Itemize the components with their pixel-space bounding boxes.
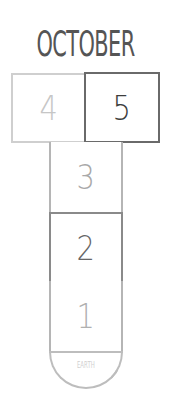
earth-base[interactable]: EARTH [49, 351, 123, 389]
hopscotch-square-5[interactable]: 5 [84, 72, 160, 143]
square-number: 1 [77, 296, 95, 336]
hopscotch-square-4[interactable]: 4 [11, 73, 86, 143]
square-number: 4 [39, 88, 57, 128]
hopscotch-square-2[interactable]: 2 [49, 212, 123, 283]
square-number: 3 [77, 157, 95, 197]
hopscotch-square-1[interactable]: 1 [49, 281, 123, 353]
square-number: 5 [113, 88, 131, 128]
hopscotch-square-3[interactable]: 3 [49, 142, 123, 214]
month-title: OCTOBER [36, 22, 135, 66]
square-number: 2 [77, 228, 95, 268]
earth-label: EARTH [77, 360, 95, 370]
